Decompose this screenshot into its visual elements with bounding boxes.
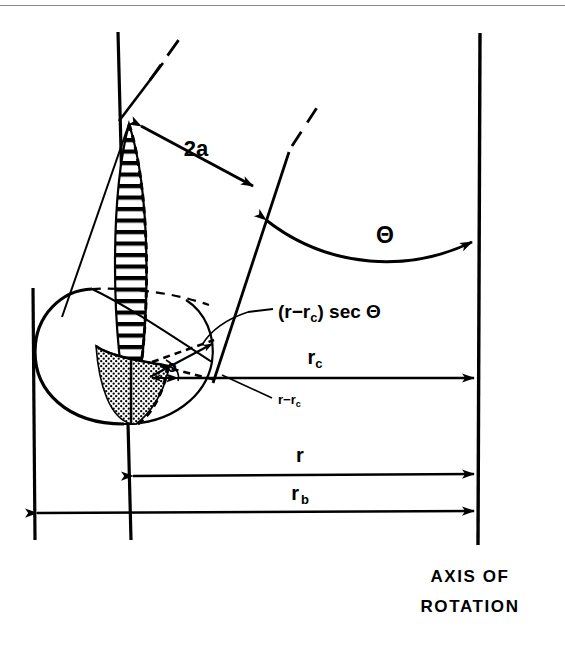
axis-of-rotation-line xyxy=(478,33,480,545)
label-sec-expression: (r−rc) sec Θ xyxy=(278,301,381,325)
arrow-sec-target xyxy=(150,344,212,377)
label-r-minus-rc-sub: c xyxy=(296,399,301,409)
slant-line-main-dashed xyxy=(292,103,320,146)
label-r-minus-rc-base: r−r xyxy=(278,392,296,407)
label-rb-base: r xyxy=(291,482,299,504)
label-theta: Θ xyxy=(376,222,394,248)
label-sec-expression-base: (r−r xyxy=(278,301,311,322)
dimension-arrow-rb xyxy=(37,511,474,513)
figure-canvas: 2a Θ Θ (r−rc) sec Θ rc r−rc r rb AXIS OF… xyxy=(0,0,565,655)
label-r: r xyxy=(296,444,304,466)
label-rc-base: r xyxy=(307,346,315,368)
dimension-arc-theta xyxy=(266,220,472,262)
label-sec-expression-sub: c xyxy=(310,310,317,325)
diagram-svg: 2a Θ Θ (r−rc) sec Θ rc r−rc r rb AXIS OF… xyxy=(0,0,565,655)
left-vertical-line xyxy=(33,288,35,540)
svg-text:r−rc: r−rc xyxy=(278,392,301,409)
label-axis-of-rotation-line1: AXIS OF xyxy=(430,567,509,586)
label-rc-sub: c xyxy=(315,356,322,371)
label-sec-expression-tail: ) sec Θ xyxy=(317,301,380,322)
label-rb-sub: b xyxy=(301,492,309,507)
label-axis-of-rotation-line2: ROTATION xyxy=(420,597,519,616)
svg-text:rc: rc xyxy=(307,346,322,371)
label-rb: rb xyxy=(291,482,309,507)
label-theta-small: Θ xyxy=(167,361,176,375)
leader-sec-expression-stub xyxy=(248,309,273,312)
slant-line-upper-dashed xyxy=(150,34,183,80)
slant-line-main xyxy=(213,152,289,383)
label-2a: 2a xyxy=(184,136,209,161)
label-rc: rc xyxy=(307,346,322,371)
label-r-minus-rc: r−rc xyxy=(278,392,301,409)
svg-text:(r−rc) sec Θ: (r−rc) sec Θ xyxy=(278,301,381,325)
dimension-arrow-r xyxy=(133,474,474,476)
svg-text:rb: rb xyxy=(291,482,309,507)
